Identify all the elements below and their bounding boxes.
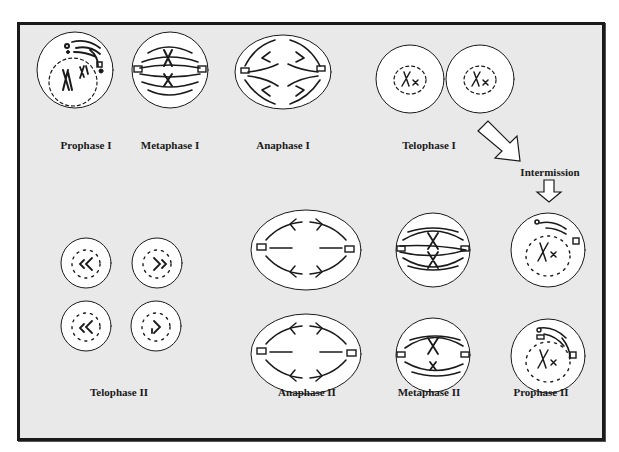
label-telophase-2: Telophase II — [90, 386, 148, 398]
label-prophase-1: Prophase I — [61, 139, 112, 151]
telophase-1-cells — [376, 45, 514, 113]
label-anaphase-1: Anaphase I — [256, 139, 310, 151]
metaphase-2-cells — [396, 213, 470, 392]
metaphase-1-cell — [132, 32, 208, 108]
label-metaphase-2: Metaphase II — [398, 386, 461, 398]
label-intermission: Intermission — [520, 166, 579, 178]
label-prophase-2: Prophase II — [513, 386, 568, 398]
prophase-1-cell — [37, 32, 113, 108]
label-metaphase-1: Metaphase I — [141, 139, 199, 151]
meiosis-illustrations — [0, 0, 619, 452]
arrow-to-intermission — [478, 121, 520, 161]
anaphase-1-cell — [235, 35, 331, 109]
label-telophase-1: Telophase I — [402, 139, 456, 151]
prophase-2-cells — [511, 213, 585, 393]
anaphase-2-cells — [251, 210, 361, 394]
arrow-to-prophase-2 — [537, 180, 561, 202]
telophase-2-cells — [61, 238, 182, 351]
label-anaphase-2: Anaphase II — [278, 386, 336, 398]
